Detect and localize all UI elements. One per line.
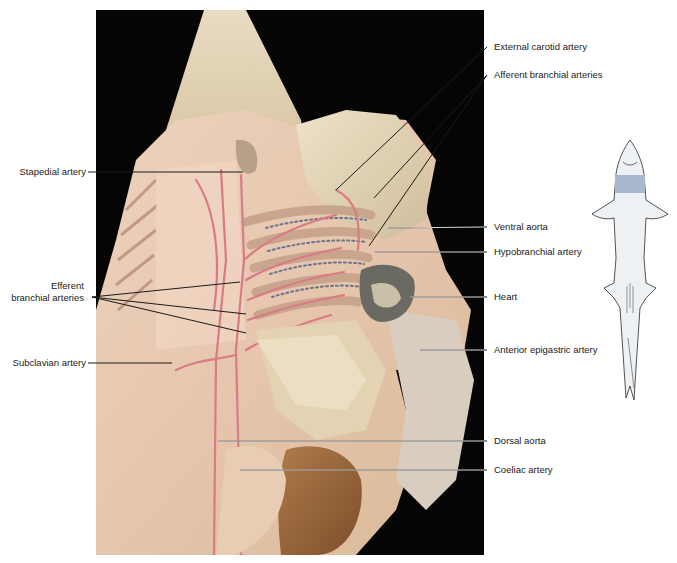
shark-inset-diagram — [590, 138, 670, 403]
label-heart: Heart — [494, 291, 517, 303]
label-efferent-branchial-arteries: Efferent branchial arteries — [11, 280, 84, 304]
label-efferent-line2: branchial arteries — [11, 292, 84, 304]
label-external-carotid-artery: External carotid artery — [494, 41, 587, 53]
dissection-photo — [96, 10, 484, 555]
label-ventral-aorta: Ventral aorta — [494, 221, 548, 233]
label-hypobranchial-artery: Hypobranchial artery — [494, 246, 582, 258]
label-subclavian-artery: Subclavian artery — [13, 357, 86, 369]
label-stapedial-artery: Stapedial artery — [19, 166, 86, 178]
label-afferent-branchial-arteries: Afferent branchial arteries — [494, 69, 603, 81]
label-efferent-line1: Efferent — [11, 280, 84, 292]
gill-region-highlight — [615, 175, 645, 193]
label-dorsal-aorta: Dorsal aorta — [494, 435, 546, 447]
label-anterior-epigastric-artery: Anterior epigastric artery — [494, 344, 597, 356]
label-coeliac-artery: Coeliac artery — [494, 464, 553, 476]
dissection-illustration — [96, 10, 484, 555]
